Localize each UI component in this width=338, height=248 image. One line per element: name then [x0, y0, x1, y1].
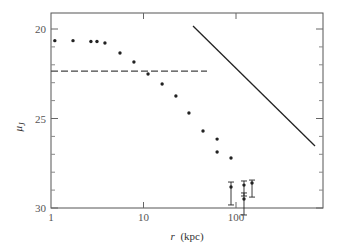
chart: 110100202530 μJ r (kpc)	[0, 0, 338, 248]
axis-ticks: 110100202530	[35, 13, 323, 223]
x-tick-label: 1	[48, 211, 54, 223]
data-point-with-error	[242, 183, 245, 186]
data-point	[160, 82, 163, 85]
data-point	[229, 156, 232, 159]
data-point-with-error	[250, 181, 253, 184]
y-tick-label: 30	[35, 202, 47, 214]
data-point	[215, 137, 218, 140]
x-axis-label-unit: (kpc)	[180, 230, 204, 243]
data-point	[215, 150, 218, 153]
data-point	[71, 39, 74, 42]
y-tick-label: 25	[35, 113, 47, 125]
data-point	[201, 129, 204, 132]
data-point	[89, 40, 92, 43]
x-axis-label: r (kpc)	[170, 230, 204, 243]
x-tick-label: 10	[138, 211, 150, 223]
data-point	[103, 41, 106, 44]
data-point-with-error	[229, 185, 232, 188]
data-point	[118, 51, 121, 54]
data-point	[95, 40, 98, 43]
y-tick-label: 20	[35, 23, 47, 35]
data-point-with-error	[242, 197, 245, 200]
data-point	[53, 39, 56, 42]
data-point	[174, 94, 177, 97]
x-axis-label-var: r	[170, 230, 175, 242]
data-point	[146, 72, 149, 75]
x-tick-label: 100	[228, 211, 245, 223]
y-axis-label: μJ	[12, 122, 27, 133]
solid-power-law-line	[193, 26, 315, 146]
plot-data	[51, 26, 315, 215]
data-point	[187, 111, 190, 114]
data-point	[132, 60, 135, 63]
